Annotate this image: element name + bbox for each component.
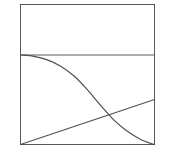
figure-container: [0, 0, 170, 162]
rising-line-series: [21, 99, 155, 144]
falling-curve-series: [21, 55, 155, 145]
plot-border-rect: [21, 5, 155, 145]
figure-canvas: [0, 0, 170, 162]
